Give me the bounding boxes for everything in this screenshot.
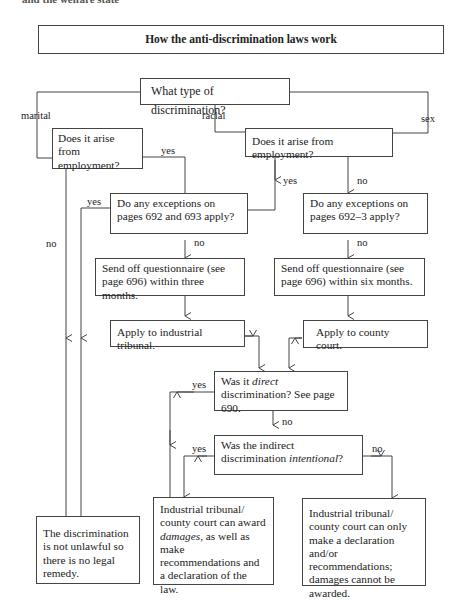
- node-not-unlawful: The discrimination is not unlawful so th…: [36, 516, 140, 584]
- intentional-question-pre: Was the indirect discrimination: [221, 439, 294, 464]
- node-questionnaire-three-months: Send off questionnaire (see page 696) wi…: [95, 258, 245, 296]
- node-damages: Industrial tribunal/ county court can aw…: [153, 497, 274, 585]
- edge-label-exceptions-no-left: no: [194, 237, 205, 249]
- edge-label-sex: sex: [421, 113, 435, 125]
- edge-label-exceptions-yes: yes: [87, 196, 101, 208]
- edge-label-marital: marital: [21, 110, 51, 122]
- node-marital-employment: Does it arise from employment?: [52, 128, 143, 169]
- node-type-question: What type of discrimination?: [140, 78, 290, 105]
- node-racial-sex-employment: Does it arise from employment?: [245, 128, 393, 157]
- damages-em: damages: [160, 530, 200, 542]
- direct-question-post: discrimination? See page 690.: [221, 388, 335, 413]
- node-county-court: Apply to county court.: [303, 320, 428, 348]
- node-direct-question: Was it direct discrimination? See page 6…: [214, 371, 348, 411]
- edge-label-racial-yes: yes: [283, 175, 297, 187]
- edge-label-racial-no: no: [357, 175, 368, 187]
- edge-label-marital-no: no: [46, 238, 57, 250]
- node-exceptions-692-3: Do any exceptions on pages 692–3 apply?: [303, 193, 428, 234]
- node-intentional-question: Was the indirect discrimination intentio…: [214, 435, 363, 475]
- damages-pre: Industrial tribunal/ county court can aw…: [160, 503, 266, 528]
- edge-label-exceptions-no-right: no: [357, 237, 368, 249]
- edge-label-intentional-yes: yes: [192, 443, 206, 455]
- edge-label-direct-yes: yes: [192, 379, 206, 391]
- node-exceptions-692-693: Do any exceptions on pages 692 and 693 a…: [110, 193, 248, 234]
- edge-label-intentional-no: no: [372, 443, 383, 455]
- node-questionnaire-six-months: Send off questionnaire (see page 696) wi…: [274, 258, 425, 296]
- intentional-question-em: intentional: [289, 452, 338, 464]
- direct-question-em: direct: [252, 375, 278, 387]
- edge-label-marital-yes: yes: [161, 145, 175, 157]
- intentional-question-post: ?: [338, 452, 343, 464]
- node-declaration-only: Industrial tribunal/ county court can on…: [302, 498, 426, 586]
- edge-label-direct-no: no: [282, 416, 293, 428]
- node-industrial-tribunal: Apply to industrial tribunal.: [110, 320, 245, 347]
- direct-question-pre: Was it: [221, 375, 252, 387]
- edge-label-racial: racial: [202, 110, 225, 122]
